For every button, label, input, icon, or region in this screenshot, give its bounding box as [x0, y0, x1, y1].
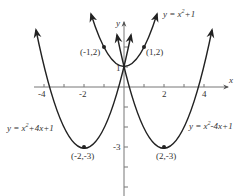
- point-neg2-neg3: [82, 145, 86, 149]
- label-x2-plus-4x-plus-1: y = x2+4x+1: [6, 122, 54, 133]
- x-tick-label: -2: [79, 89, 87, 99]
- label-x2-minus-4x-plus-1: y = x2-4x+1: [188, 120, 233, 131]
- label-x2-plus-1: y = x2+1: [162, 8, 195, 19]
- point-2-neg3: [162, 145, 166, 149]
- graph-canvas: x y -4 -2 2 4 1 -3 (-1,2) (1,2) (-2,-3) …: [0, 0, 243, 196]
- x-tick-label: -4: [38, 89, 46, 99]
- annotation-1-2: (1,2): [146, 47, 163, 57]
- annotation-neg2-neg3: (-2,-3): [71, 151, 94, 161]
- point-neg1-2: [102, 45, 106, 49]
- x-tick-label: 2: [162, 89, 167, 99]
- annotation-2-neg3: (2,-3): [156, 151, 176, 161]
- x-axis-label: x: [228, 75, 233, 85]
- y-tick-label: -3: [113, 142, 121, 152]
- x-tick-label: 4: [202, 89, 207, 99]
- y-axis-label: y: [115, 18, 120, 28]
- annotation-neg1-2: (-1,2): [80, 47, 100, 57]
